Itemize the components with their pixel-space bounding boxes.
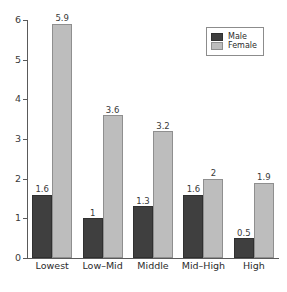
bar-value-label: 5.9 <box>55 14 69 23</box>
bar-male-3[interactable]: 1.6 <box>183 195 203 258</box>
x-axis-label: Mid–High <box>178 261 228 271</box>
y-tick-label: 2 <box>15 174 21 184</box>
bar-female-2[interactable]: 3.2 <box>153 131 173 258</box>
x-axis-label: Lowest <box>27 261 77 271</box>
plot-area: 1.65.913.61.33.21.620.51.9 <box>27 20 279 258</box>
bar-female-1[interactable]: 3.6 <box>103 115 123 258</box>
x-axis-labels: LowestLow–MidMiddleMid–HighHigh <box>27 261 279 271</box>
bar-value-label: 1.3 <box>136 197 150 206</box>
legend-label: Female <box>228 42 257 50</box>
bar-value-label: 1 <box>90 209 95 218</box>
y-tick-label: 0 <box>15 253 21 263</box>
bar-group: 1.62 <box>178 20 228 258</box>
legend-item-female[interactable]: Female <box>211 42 257 50</box>
y-tick-label: 4 <box>15 95 21 105</box>
legend: MaleFemale <box>206 27 264 56</box>
bar-group: 13.6 <box>77 20 127 258</box>
bar-value-label: 1.6 <box>35 185 49 194</box>
legend-swatch-female <box>211 42 223 50</box>
bar-value-label: 3.6 <box>106 106 120 115</box>
bar-group: 1.65.9 <box>27 20 77 258</box>
bar-value-label: 2 <box>211 169 216 178</box>
y-tick-label: 1 <box>15 214 21 224</box>
y-tick-label: 3 <box>15 134 21 144</box>
x-axis-line <box>27 258 279 259</box>
bar-value-label: 1.9 <box>257 173 271 182</box>
bar-chart: 0123456 1.65.913.61.33.21.620.51.9 Lowes… <box>0 0 287 292</box>
bar-male-0[interactable]: 1.6 <box>32 195 52 258</box>
bar-groups: 1.65.913.61.33.21.620.51.9 <box>27 20 279 258</box>
bar-female-0[interactable]: 5.9 <box>52 24 72 258</box>
bar-male-4[interactable]: 0.5 <box>234 238 254 258</box>
bar-male-2[interactable]: 1.3 <box>133 206 153 258</box>
y-tick-label: 6 <box>15 15 21 25</box>
y-tick-label: 5 <box>15 55 21 65</box>
x-axis-label: High <box>229 261 279 271</box>
bar-value-label: 0.5 <box>237 229 251 238</box>
bar-value-label: 1.6 <box>187 185 201 194</box>
legend-label: Male <box>228 33 247 41</box>
legend-item-male[interactable]: Male <box>211 33 257 41</box>
y-tick-mark <box>23 258 27 259</box>
x-axis-label: Low–Mid <box>77 261 127 271</box>
bar-group: 1.33.2 <box>128 20 178 258</box>
bar-male-1[interactable]: 1 <box>83 218 103 258</box>
bar-female-3[interactable]: 2 <box>203 179 223 258</box>
bar-female-4[interactable]: 1.9 <box>254 183 274 258</box>
bar-value-label: 3.2 <box>156 122 170 131</box>
legend-swatch-male <box>211 33 223 41</box>
bar-group: 0.51.9 <box>229 20 279 258</box>
x-axis-label: Middle <box>128 261 178 271</box>
